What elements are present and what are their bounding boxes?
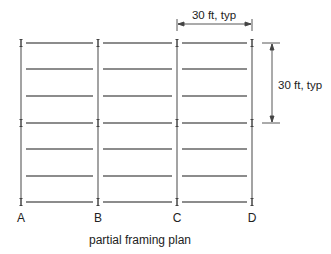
column-i-icon	[20, 199, 23, 206]
arrow-down-icon	[270, 116, 274, 122]
column-i-icon	[20, 120, 23, 127]
beams	[26, 43, 247, 202]
arrow-up-icon	[270, 44, 274, 50]
column-i-icon	[97, 120, 100, 127]
column-label-c: C	[173, 211, 182, 225]
arrow-left-icon	[178, 22, 184, 26]
column-i-icon	[251, 120, 254, 127]
column-i-icon	[20, 40, 23, 47]
column-i-icon	[176, 120, 179, 127]
column-i-icon	[176, 40, 179, 47]
column-i-icon	[251, 40, 254, 47]
column-label-b: B	[94, 211, 102, 225]
column-label-a: A	[17, 211, 25, 225]
arrow-right-icon	[245, 22, 251, 26]
column-i-icon	[97, 199, 100, 206]
column-i-icon	[176, 199, 179, 206]
column-i-icon	[97, 40, 100, 47]
diagram-caption: partial framing plan	[89, 233, 191, 247]
column-label-d: D	[248, 211, 257, 225]
vertical-dimension-label: 30 ft, typ	[278, 79, 322, 91]
horizontal-dimension-label: 30 ft, typ	[192, 9, 236, 21]
framing-plan: 30 ft, typ 30 ft, typ A B C D partial fr…	[0, 0, 331, 254]
column-i-icon	[251, 199, 254, 206]
